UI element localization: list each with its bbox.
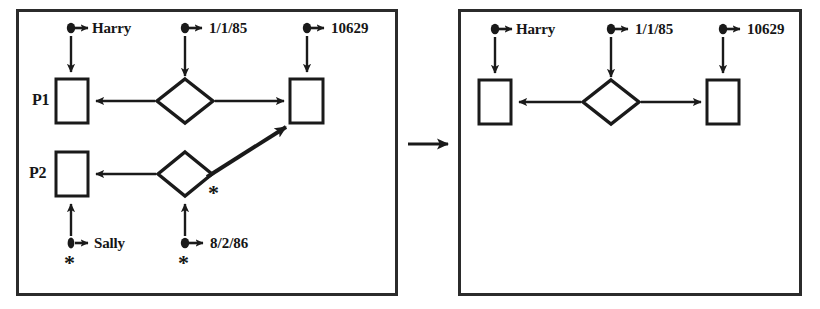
label-entity-p1: P1: [32, 92, 49, 108]
label-attribute-date1-right: 1/1/85: [635, 22, 673, 37]
label-attribute-number-right: 10629: [747, 22, 785, 37]
label-attribute-harry: Harry: [92, 21, 131, 36]
label-attribute-number: 10629: [331, 21, 369, 36]
label-attribute-sally: Sally: [94, 236, 125, 251]
label-attribute-harry-right: Harry: [516, 22, 555, 37]
target-graph-panel: [458, 9, 802, 296]
label-entity-p2: P2: [29, 165, 46, 181]
label-attribute-date2: 8/2/86: [210, 236, 248, 251]
figure-container: Harry 1/1/85 10629 P1 P2 Sally 8/2/86 * …: [0, 0, 820, 309]
asterisk-diagonal-edge: *: [208, 182, 219, 204]
asterisk-date2: *: [178, 252, 189, 274]
label-attribute-date1: 1/1/85: [209, 21, 247, 36]
asterisk-sally: *: [64, 252, 75, 274]
